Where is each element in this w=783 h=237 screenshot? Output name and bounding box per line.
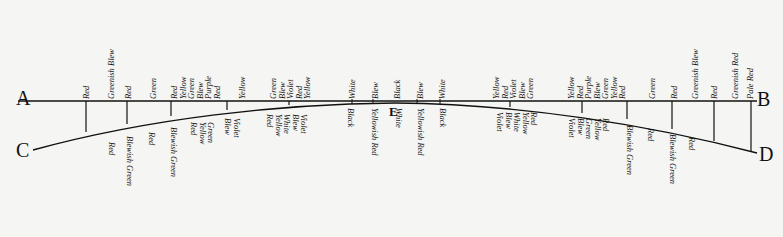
point-a-label: A (16, 88, 30, 108)
lower-color-label: Blewish Green (669, 134, 678, 184)
upper-color-label: Red (710, 86, 719, 99)
lower-color-label: Green (585, 118, 594, 139)
lower-color-label: Red (688, 137, 697, 150)
lower-color-label: Yellowish Red (417, 108, 426, 156)
lower-color-label: White (395, 108, 404, 128)
upper-color-label: Yellow (238, 77, 247, 99)
lower-color-label: Red (108, 142, 117, 155)
upper-color-label: White (348, 79, 357, 99)
lower-color-label: Red (647, 128, 656, 141)
upper-color-label: Green (648, 78, 657, 99)
upper-color-label: Red (618, 86, 627, 99)
lower-color-label: White (283, 114, 292, 134)
lower-color-label: Green (207, 122, 216, 143)
upper-color-label: Blew (416, 82, 425, 99)
upper-color-label: Green (149, 78, 158, 99)
point-d-label: D (759, 144, 773, 164)
upper-color-label: Red (670, 86, 679, 99)
upper-color-label: Greenish Blew (691, 49, 700, 99)
upper-color-label: Pale Red (746, 68, 755, 99)
upper-color-label: Greenish Red (731, 53, 740, 99)
lower-color-label: Violet (496, 112, 505, 132)
point-b-label: B (757, 89, 770, 109)
upper-color-label: Black (393, 80, 402, 99)
lower-color-label: Black (347, 108, 356, 127)
upper-color-label: Green (526, 78, 535, 99)
upper-color-label: Red (124, 86, 133, 99)
optics-diagram: A B C D E RedGreenish BlewRedGreenRedYel… (0, 0, 783, 237)
lower-color-label: Blewish Green (626, 125, 635, 175)
point-c-label: C (16, 140, 29, 160)
lower-color-label: Red (190, 122, 199, 135)
lower-color-label: Violet (568, 118, 577, 138)
lower-color-label: Yellowish Red (371, 108, 380, 156)
upper-color-label: White (438, 79, 447, 99)
upper-color-label: Blew (371, 82, 380, 99)
lower-color-label: White (513, 112, 522, 132)
upper-color-label: Red (82, 86, 91, 99)
lower-color-label: Blewish Green (126, 136, 135, 186)
lower-color-label: Violet (232, 118, 241, 138)
lower-color-label: Blewish Green (170, 127, 179, 177)
lower-color-label: Violet (300, 114, 309, 134)
lower-color-label: Red (530, 112, 539, 125)
lower-color-label: Red (266, 114, 275, 127)
upper-color-label: Red (213, 86, 222, 99)
lower-color-label: Red (602, 118, 611, 131)
lower-color-label: Red (148, 132, 157, 145)
lower-color-label: Black (439, 108, 448, 127)
upper-color-label: Yellow (303, 77, 312, 99)
lower-color-label: Blew (224, 118, 233, 135)
upper-color-label: Greenish Blew (107, 49, 116, 99)
